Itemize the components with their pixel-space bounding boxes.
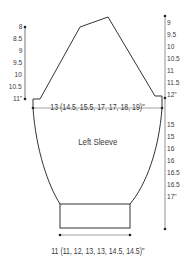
total-height-label: 10.5 xyxy=(167,55,180,63)
cap-height-label: 8 xyxy=(18,23,22,31)
total-height-label: 15 xyxy=(167,121,174,129)
cap-height-label: 9 xyxy=(18,47,22,55)
total-height-label: 11 xyxy=(167,67,174,75)
cuff-width-label-row: 11 (11, 12, 13, 13, 14.5, 14.5)" xyxy=(0,240,195,258)
total-height-label: 16 xyxy=(167,157,174,165)
total-height-label: 11.5 xyxy=(167,79,179,87)
total-height-label: 9 xyxy=(167,19,171,27)
total-height-label: 16.5 xyxy=(167,169,180,177)
cap-height-label: 10 xyxy=(15,71,22,79)
cuff-width-label: 11 (11, 12, 13, 13, 14.5, 14.5)" xyxy=(51,246,144,256)
cap-width-label-row: 13 (14.5, 15.5, 17, 17, 18, 19)" xyxy=(0,96,195,114)
sleeve-title: Left Sleeve xyxy=(78,136,117,147)
total-height-label: 9.5 xyxy=(167,31,176,39)
cap-height-label: 10.5 xyxy=(9,83,22,91)
cap-height-label: 8.5 xyxy=(13,35,22,43)
cap-width-label: 13 (14.5, 15.5, 17, 17, 18, 19)" xyxy=(50,102,144,112)
cap-height-label: 9.5 xyxy=(13,59,22,67)
total-height-label: 16.5 xyxy=(167,181,180,189)
title-row: Left Sleeve xyxy=(0,131,195,149)
total-height-label: 17" xyxy=(167,193,177,201)
sleeve-schematic: 8 8.5 9 9.5 10 10.5 11" 9 9.5 10 10.5 11… xyxy=(0,0,195,262)
total-height-label: 10 xyxy=(167,43,174,51)
